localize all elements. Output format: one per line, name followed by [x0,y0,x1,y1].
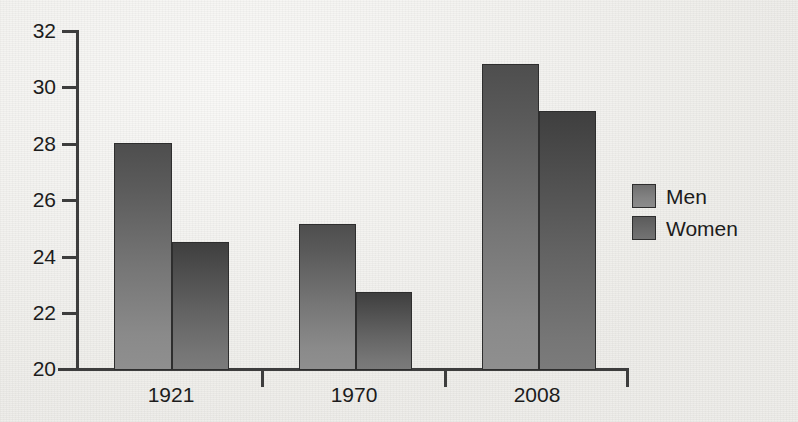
x-tick-label-2008: 2008 [477,384,597,405]
x-tick-label-1921: 1921 [111,384,231,405]
x-tick-mark-1 [261,371,264,387]
bar-1970-women [356,292,412,370]
y-tick-mark-22 [62,312,77,315]
y-tick-mark-24 [62,256,77,259]
y-tick-label-30: 30 [16,76,56,97]
bar-1921-women [172,242,229,370]
y-tick-label-32: 32 [16,20,56,41]
x-tick-mark-2 [444,371,447,387]
bar-1970-men [299,224,356,370]
legend-swatch-women-icon [632,216,656,240]
y-tick-label-20: 20 [16,358,56,379]
bar-2008-women [539,111,596,370]
x-tick-label-1970: 1970 [294,384,414,405]
y-tick-mark-26 [62,199,77,202]
legend-item-men: Men [632,180,738,212]
y-tick-label-24: 24 [16,246,56,267]
bar-1921-men [114,143,172,370]
bar-chart: 32 30 28 26 24 22 20 1921 1970 2008 Men … [0,0,798,422]
y-tick-mark-30 [62,86,77,89]
chart-legend: Men Women [632,180,738,244]
x-tick-mark-3 [626,371,629,387]
bar-2008-men [482,64,539,370]
y-tick-mark-32 [62,30,77,33]
legend-label-women: Women [666,218,738,239]
legend-swatch-men-icon [632,184,656,208]
y-tick-label-22: 22 [16,302,56,323]
y-tick-label-26: 26 [16,189,56,210]
y-tick-label-28: 28 [16,133,56,154]
legend-label-men: Men [666,186,707,207]
legend-item-women: Women [632,212,738,244]
y-tick-mark-28 [62,143,77,146]
